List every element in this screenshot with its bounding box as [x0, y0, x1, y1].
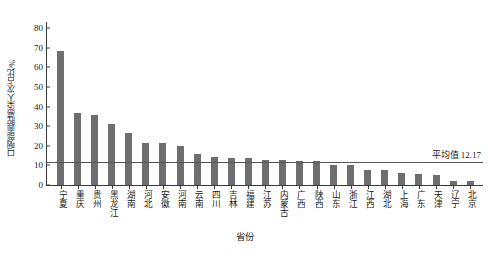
x-axis-category-label: 上海	[397, 190, 408, 208]
x-axis-tick-mark	[470, 186, 471, 189]
bar	[347, 165, 354, 185]
x-axis-tick-mark	[146, 186, 147, 189]
bar	[177, 146, 184, 185]
x-axis-tick-mark	[282, 186, 283, 189]
x-axis-category-label: 天津	[431, 190, 442, 208]
mean-line-label: 平均值 12.17	[432, 150, 482, 160]
x-axis-category-label: 江西	[363, 190, 374, 208]
y-axis-tick-label: 40	[34, 102, 43, 111]
x-axis-category-label: 山东	[329, 190, 340, 208]
y-axis-tick-label: 70	[34, 43, 43, 52]
bar	[125, 133, 132, 185]
x-axis-tick-mark	[299, 186, 300, 189]
x-axis-tick-mark	[214, 186, 215, 189]
bar	[279, 160, 286, 185]
y-axis-tick-label: 0	[39, 181, 44, 190]
y-axis-tick-label: 60	[34, 63, 43, 72]
x-axis-category-label: 云南	[192, 190, 203, 208]
bar	[91, 115, 98, 185]
x-axis-category-label: 贵州	[90, 190, 101, 208]
x-axis-title: 省份	[0, 232, 490, 243]
x-axis-category-label: 北京	[465, 190, 476, 208]
x-axis-tick-mark	[436, 186, 437, 189]
x-axis-category-label: 湖北	[380, 190, 391, 208]
x-axis-tick-mark	[95, 186, 96, 189]
x-axis-tick-mark	[385, 186, 386, 189]
x-axis-tick-mark	[265, 186, 266, 189]
x-axis-tick-mark	[453, 186, 454, 189]
bar	[398, 173, 405, 185]
x-axis-tick-mark	[368, 186, 369, 189]
y-axis-title: 口咽部面腔感染人次占比/%	[8, 24, 24, 192]
x-axis-tick-mark	[248, 186, 249, 189]
bar	[194, 154, 201, 185]
y-axis-tick-labels: 01020304050607080	[24, 22, 46, 194]
x-axis-category-label: 福建	[243, 190, 254, 208]
x-axis-tick-mark	[351, 186, 352, 189]
bar	[330, 165, 337, 185]
x-axis-category-label: 广东	[414, 190, 425, 208]
y-axis-tick-label: 30	[34, 122, 43, 131]
x-axis-tick-mark	[231, 186, 232, 189]
mean-reference-line	[46, 162, 483, 163]
y-axis-tick-label: 50	[34, 82, 43, 91]
x-axis-tick-mark	[419, 186, 420, 189]
bar	[262, 160, 269, 185]
x-axis-category-label: 安徽	[158, 190, 169, 208]
x-axis-category-label: 浙江	[346, 190, 357, 208]
x-axis-category-label: 四川	[209, 190, 220, 208]
y-axis-tick-label: 10	[34, 161, 43, 170]
plot-area: 平均值 12.17	[46, 28, 483, 186]
bar-chart-figure: 口咽部面腔感染人次占比/% 01020304050607080 平均值 12.1…	[0, 0, 490, 258]
x-axis-tick-mark	[402, 186, 403, 189]
x-axis-category-labels: 宁夏重庆贵州黑龙江湖南河北安徽河南云南四川吉林福建江苏内蒙古广西陕西山东浙江江西…	[46, 190, 483, 230]
bar	[142, 143, 149, 185]
x-axis-tick-mark	[163, 186, 164, 189]
x-axis-tick-mark	[334, 186, 335, 189]
bar	[211, 157, 218, 185]
y-axis-tick-label: 20	[34, 141, 43, 150]
x-axis-tick-mark	[129, 186, 130, 189]
x-axis-tick-mark	[197, 186, 198, 189]
bar	[74, 113, 81, 185]
x-axis-category-label: 重庆	[73, 190, 84, 208]
x-axis-category-label: 宁夏	[56, 190, 67, 208]
x-axis-category-label: 河北	[141, 190, 152, 208]
x-axis-category-label: 黑龙江	[107, 190, 118, 217]
bar	[450, 181, 457, 185]
bar	[159, 143, 166, 185]
x-axis-tick-mark	[78, 186, 79, 189]
bar	[415, 174, 422, 185]
x-axis-category-label: 陕西	[312, 190, 323, 208]
x-axis-tick-mark	[61, 186, 62, 189]
x-axis-category-label: 江苏	[260, 190, 271, 208]
bar	[364, 170, 371, 185]
y-axis-tick-label: 80	[34, 24, 43, 33]
x-axis-category-label: 湖南	[124, 190, 135, 208]
bar	[108, 124, 115, 185]
x-axis-category-label: 河南	[175, 190, 186, 208]
bar	[467, 181, 474, 185]
x-axis-tick-mark	[317, 186, 318, 189]
bar	[433, 175, 440, 185]
x-axis-tick-mark	[112, 186, 113, 189]
bar	[313, 161, 320, 185]
bar	[381, 170, 388, 185]
x-axis-category-label: 吉林	[226, 190, 237, 208]
bar	[57, 51, 64, 185]
x-axis-category-label: 辽宁	[448, 190, 459, 208]
x-axis-category-label: 广西	[294, 190, 305, 208]
x-axis-category-label: 内蒙古	[277, 190, 288, 217]
bar	[296, 161, 303, 185]
x-axis-tick-mark	[180, 186, 181, 189]
